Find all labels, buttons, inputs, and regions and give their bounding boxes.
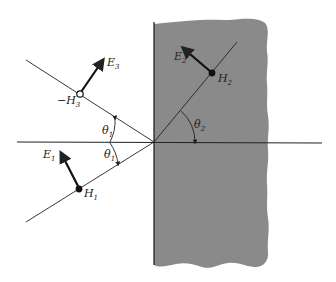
e3-vector xyxy=(81,60,103,92)
label-theta1-upper: θ1 xyxy=(102,124,113,139)
label-theta1-lower: θ1 xyxy=(104,148,115,163)
wave-reflection-diagram: E3 −H3 E1 H1 E2 H2 θ1 θ1 θ2 xyxy=(0,0,336,282)
normal-line xyxy=(17,142,322,143)
reflected-ray xyxy=(26,60,154,142)
label-h1: H1 xyxy=(83,187,98,202)
label-e3: E3 xyxy=(106,56,120,71)
h3-open-circle-icon xyxy=(77,91,83,97)
h1-dot-icon xyxy=(76,186,83,193)
h2-dot-icon xyxy=(209,70,216,77)
e1-vector xyxy=(61,153,79,188)
label-e1: E1 xyxy=(42,148,56,163)
